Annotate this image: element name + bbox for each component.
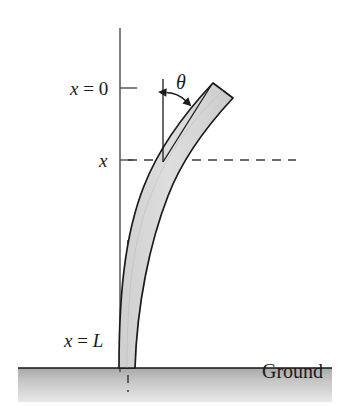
label-x-L-value: L — [93, 330, 104, 351]
label-ground: Ground — [262, 361, 323, 381]
label-x-equals-zero: x = 0 — [70, 79, 108, 98]
label-x-equals-L: x = L — [64, 331, 103, 350]
label-x-var: x — [99, 150, 107, 171]
label-theta: θ — [176, 72, 186, 92]
label-x-zero-value: 0 — [99, 78, 109, 99]
figure-canvas — [0, 0, 355, 406]
theta-angle-arrow — [167, 93, 187, 102]
bending-beam-figure: x = 0 x x = L θ Ground — [0, 0, 355, 406]
label-x-zero-eq: = — [78, 78, 98, 99]
label-x-L-eq: = — [72, 330, 92, 351]
bent-beam — [119, 83, 233, 368]
label-x: x — [99, 151, 107, 170]
